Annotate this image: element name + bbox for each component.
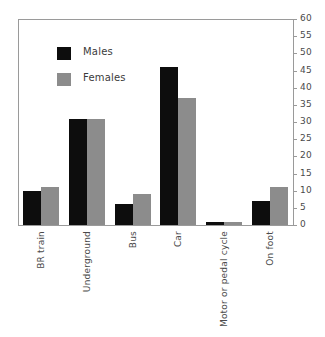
x-axis-category-label: Car [173,231,183,247]
bar-males-on-foot [252,201,270,225]
bar-females-br-train [41,187,59,225]
legend-label: Females [83,71,126,85]
legend-swatch-females [57,73,71,86]
x-axis-category-label: Motor or pedal cycle [219,231,229,327]
bar-males-motor-or-pedal-cycle [206,222,224,225]
y-axis-tick-mark [293,208,297,209]
legend-entry: Males [57,44,167,70]
y-axis-tick-label: 0 [300,219,306,230]
y-axis-tick-mark [293,225,297,226]
bar-females-car [178,98,196,225]
y-axis-tick-label: 40 [300,82,312,93]
y-axis-tick-label: 20 [300,150,312,161]
y-axis-tick-label: 55 [300,30,312,41]
bar-group [23,19,59,225]
y-axis-tick-mark [293,36,297,37]
bar-males-bus [115,204,133,225]
chart-legend: MalesFemales [57,44,167,96]
bar-group [206,19,242,225]
x-axis-category-label: Bus [128,231,138,248]
y-axis-tick-label: 35 [300,99,312,110]
x-axis-category-label: BR train [36,231,46,269]
bar-females-bus [133,194,151,225]
x-axis-baseline [18,225,293,226]
legend-swatch-males [57,47,71,60]
x-axis-category-label: Underground [82,231,92,292]
bar-females-on-foot [270,187,288,225]
y-axis-tick-mark [293,19,297,20]
y-axis-tick-label: 15 [300,168,312,179]
y-axis-tick-mark [293,122,297,123]
y-axis-tick-mark [293,71,297,72]
y-axis-tick-mark [293,139,297,140]
y-axis-tick-label: 30 [300,116,312,127]
y-axis-tick-mark [293,88,297,89]
bar-females-motor-or-pedal-cycle [224,222,242,225]
y-axis-tick-label: 45 [300,65,312,76]
bar-males-br-train [23,191,41,225]
x-axis-category-label: On foot [265,231,275,266]
y-axis-tick-label: 50 [300,47,312,58]
y-axis-tick-mark [293,156,297,157]
y-axis-tick-label: 5 [300,202,306,213]
legend-label: Males [83,45,113,59]
y-axis-tick-mark [293,53,297,54]
y-axis-tick-mark [293,174,297,175]
y-axis: 051015202530354045505560 [293,19,325,226]
bar-females-underground [87,119,105,225]
bar-chart-figure: BR trainUndergroundBusCarMotor or pedal … [0,0,325,337]
legend-entry: Females [57,70,167,96]
y-axis-tick-label: 10 [300,185,312,196]
bar-group [252,19,288,225]
y-axis-tick-label: 25 [300,133,312,144]
y-axis-tick-mark [293,191,297,192]
bar-males-underground [69,119,87,225]
y-axis-tick-label: 60 [300,13,312,24]
y-axis-tick-mark [293,105,297,106]
